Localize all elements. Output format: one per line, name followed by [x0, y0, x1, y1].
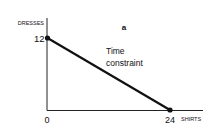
- annotation-time: Time: [106, 46, 125, 56]
- x-tick-24: 24: [165, 115, 175, 125]
- budget-constraint-chart: DRESSES 12 a Time constraint 0 24 SHIRTS: [0, 0, 224, 134]
- annotation-constraint: constraint: [106, 58, 143, 68]
- y-axis-label: DRESSES: [18, 20, 45, 26]
- y-intercept-point: [45, 35, 50, 40]
- x-tick-0: 0: [44, 115, 49, 125]
- x-axis-label: SHIRTS: [181, 116, 201, 122]
- x-intercept-point: [167, 107, 172, 112]
- y-tick-12: 12: [34, 33, 45, 44]
- panel-label: a: [122, 23, 127, 32]
